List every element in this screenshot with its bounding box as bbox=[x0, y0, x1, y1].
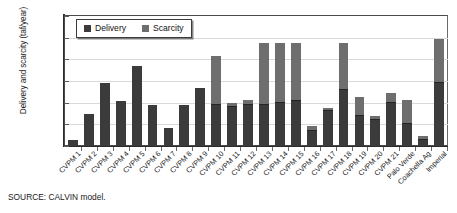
figure-container: Delivery and scarcity (taf/year) 05001,0… bbox=[0, 0, 457, 213]
legend-item-delivery: Delivery bbox=[84, 24, 126, 33]
legend-label-scarcity: Scarcity bbox=[153, 24, 184, 33]
legend-item-scarcity: Scarcity bbox=[142, 24, 184, 33]
chart-legend: Delivery Scarcity bbox=[76, 19, 192, 38]
source-caption: SOURCE: CALVIN model. bbox=[8, 192, 106, 202]
x-axis-labels: CVPM 1CVPM 2CVPM 3CVPM 4CVPM 5CVPM 6CVPM… bbox=[0, 0, 457, 213]
legend-swatch-delivery-icon bbox=[84, 25, 91, 32]
legend-swatch-scarcity-icon bbox=[142, 25, 149, 32]
legend-label-delivery: Delivery bbox=[95, 24, 126, 33]
